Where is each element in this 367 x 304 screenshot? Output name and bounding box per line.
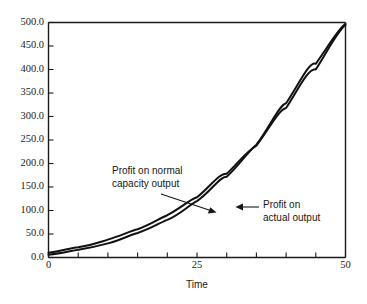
x-axis-title: Time	[186, 279, 208, 290]
annotation-actual-output-line2: actual output	[263, 212, 320, 223]
y-tick-label: 500.0	[20, 16, 44, 27]
y-tick-label: 50.0	[26, 227, 44, 238]
y-tick-label: 150.0	[20, 180, 44, 191]
y-tick-label: 300.0	[20, 110, 44, 121]
y-tick-label: 450.0	[20, 39, 44, 50]
chart-background	[0, 0, 367, 304]
annotation-normal-capacity-line2: capacity output	[112, 178, 179, 189]
chart-container: 0.0 50.0 100.0 150.0 200.0 250.0 300.0 3…	[0, 0, 367, 304]
annotation-actual-output-line1: Profit on	[263, 199, 300, 210]
y-tick-label: 250.0	[20, 133, 44, 144]
x-tick-label: 25	[192, 259, 203, 270]
profit-comparison-chart: 0.0 50.0 100.0 150.0 200.0 250.0 300.0 3…	[0, 0, 367, 304]
y-tick-label: 200.0	[20, 157, 44, 168]
y-tick-label: 0.0	[31, 251, 44, 262]
y-tick-label: 100.0	[20, 204, 44, 215]
x-tick-label: 0	[46, 259, 51, 270]
annotation-normal-capacity-line1: Profit on normal	[112, 165, 183, 176]
y-tick-label: 400.0	[20, 63, 44, 74]
x-tick-label: 50	[340, 259, 351, 270]
y-tick-label: 350.0	[20, 86, 44, 97]
